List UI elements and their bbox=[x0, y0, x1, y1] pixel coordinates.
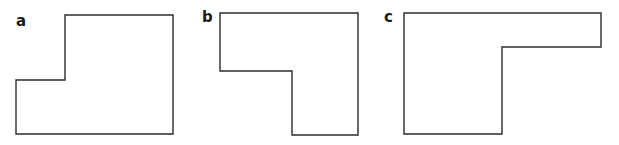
shape-c-outline bbox=[404, 13, 601, 134]
shape-c-label: c bbox=[384, 8, 393, 26]
shape-b-group: b bbox=[202, 8, 358, 135]
shape-a-label: a bbox=[16, 12, 26, 30]
shape-c-group: c bbox=[384, 8, 601, 134]
figure-canvas: a b c bbox=[0, 0, 619, 145]
shape-a-group: a bbox=[16, 12, 173, 134]
shape-b-label: b bbox=[202, 8, 213, 26]
shape-a-outline bbox=[16, 15, 173, 134]
shape-b-outline bbox=[220, 13, 358, 135]
